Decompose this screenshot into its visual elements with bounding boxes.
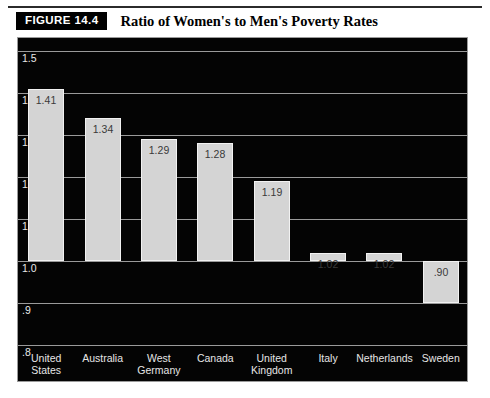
x-axis-category-label: United Kingdom bbox=[244, 352, 300, 376]
figure-header: FIGURE 14.4 Ratio of Women's to Men's Po… bbox=[16, 10, 378, 32]
bar-value-label: 1.02 bbox=[310, 259, 346, 270]
bar bbox=[197, 143, 233, 261]
bar-value-label: .90 bbox=[423, 267, 459, 278]
x-axis-category-label: Canada bbox=[187, 352, 243, 364]
bar-value-label: 1.41 bbox=[28, 95, 64, 106]
bar-value-label: 1.28 bbox=[197, 149, 233, 160]
figure-title: Ratio of Women's to Men's Poverty Rates bbox=[120, 13, 377, 30]
y-axis-tick-label: .9 bbox=[22, 305, 31, 316]
header-rule bbox=[8, 6, 482, 8]
bar bbox=[85, 118, 121, 261]
y-axis-tick-label: 1.5 bbox=[22, 53, 37, 64]
y-axis-tick-label: 1.0 bbox=[22, 263, 37, 274]
bar-value-label: 1.29 bbox=[141, 145, 177, 156]
x-axis-category-label: Italy bbox=[300, 352, 356, 364]
bar bbox=[141, 139, 177, 261]
x-axis-category-label: United States bbox=[18, 352, 74, 376]
gridline bbox=[18, 93, 467, 94]
bar-value-label: 1.19 bbox=[254, 187, 290, 198]
figure-number-badge: FIGURE 14.4 bbox=[16, 12, 107, 31]
bar-value-label: 1.34 bbox=[85, 124, 121, 135]
bar bbox=[28, 89, 64, 261]
x-axis-category-label: Australia bbox=[74, 352, 130, 364]
x-axis-category-label: Sweden bbox=[413, 352, 468, 364]
chart-plot-area: 1.51.41.31.21.11.0.9.8 1.411.341.291.281… bbox=[17, 37, 468, 382]
gridline bbox=[18, 303, 467, 304]
bar-value-label: 1.02 bbox=[366, 259, 402, 270]
x-axis-category-label: Netherlands bbox=[356, 352, 412, 364]
figure-container: FIGURE 14.4 Ratio of Women's to Men's Po… bbox=[0, 0, 490, 398]
x-axis-category-label: West Germany bbox=[131, 352, 187, 376]
gridline bbox=[18, 345, 467, 346]
gridline bbox=[18, 51, 467, 52]
